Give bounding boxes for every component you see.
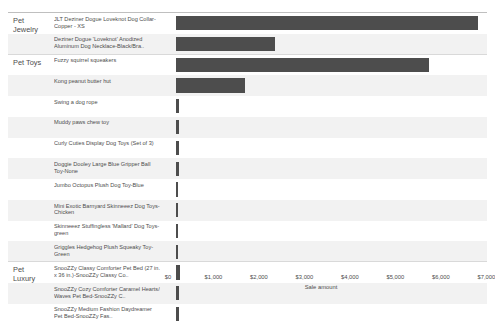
category-label: Pet Toys	[13, 58, 47, 67]
product-row: Griggles Hedgehog Plush Squeaky Toy-Gree…	[50, 241, 163, 262]
bar[interactable]	[176, 224, 178, 238]
bar-row	[163, 179, 487, 200]
x-axis-tick-label: $4,000	[341, 274, 359, 280]
bar-row	[163, 158, 487, 179]
x-axis-tick-label: $6,000	[432, 274, 450, 280]
product-label: Muddy paws chew toy	[54, 119, 160, 126]
product-row: Mini Exotic Barnyard Skinneeez Dog Toys-…	[50, 200, 163, 221]
product-row: SnooZZy Classy Comforter Pet Bed (27 in.…	[50, 262, 163, 283]
x-axis-title: Sale amount	[155, 284, 487, 290]
bar-row	[163, 34, 487, 55]
x-axis-tick-label: $7,000	[477, 274, 495, 280]
bar[interactable]	[176, 16, 478, 30]
category-label: Pet Jewelry	[13, 16, 47, 34]
product-label: Jumbo Octopus Plush Dog Toy-Blue	[54, 182, 160, 189]
bar[interactable]	[176, 99, 179, 113]
product-label: Curly Cuties Display Dog Toys (Set of 3)	[54, 140, 160, 147]
product-label: Fuzzy squirrel squeakers	[54, 57, 160, 64]
product-row: Deziner Dogue 'Loveknot' Anodized Alumin…	[50, 34, 163, 55]
bar-row	[163, 55, 487, 76]
bar-row	[163, 138, 487, 159]
product-label: JLT Deziner Dogue Loveknot Dog Collar-Co…	[54, 16, 160, 30]
bar-row	[163, 304, 487, 325]
product-label: SnooZZy Medium Fashion Daydreamer Pet Be…	[54, 306, 160, 320]
product-row: SnooZZy Cozy Comforter Caramel Hearts/ W…	[50, 283, 163, 304]
product-row: Swing a dog rope	[50, 96, 163, 117]
product-row: Doggie Dooley Large Blue Gripper Ball To…	[50, 158, 163, 179]
product-row: Fuzzy squirrel squeakers	[50, 55, 163, 76]
product-row: SnooZZy Medium Fashion Daydreamer Pet Be…	[50, 304, 163, 325]
bar[interactable]	[176, 58, 429, 72]
bar[interactable]	[176, 307, 179, 321]
product-label: Swing a dog rope	[54, 99, 160, 106]
bar[interactable]	[176, 78, 245, 92]
bar-row	[163, 221, 487, 242]
bar[interactable]	[176, 141, 179, 155]
product-label: SnooZZy Cozy Comforter Caramel Hearts/ W…	[54, 286, 160, 300]
x-axis-tick-label: $1,000	[205, 274, 223, 280]
category-label: Pet Luxury	[13, 265, 47, 283]
bar[interactable]	[176, 182, 178, 196]
product-label: Deziner Dogue 'Loveknot' Anodized Alumin…	[54, 36, 160, 50]
product-label: SnooZZy Classy Comforter Pet Bed (27 in.…	[54, 265, 160, 279]
chart-plot-frame: Pet JewelryPet ToysPet Luxury JLT Dezine…	[8, 12, 487, 270]
x-axis-tick-label: $3,000	[296, 274, 314, 280]
product-row: Jumbo Octopus Plush Dog Toy-Blue	[50, 179, 163, 200]
bar[interactable]	[176, 162, 179, 176]
product-label: Kong peanut butter hut	[54, 78, 160, 85]
bar[interactable]	[176, 245, 178, 259]
product-label: Doggie Dooley Large Blue Gripper Ball To…	[54, 161, 160, 175]
product-label: Skinneeez Stuffingless 'Mallard' Dog Toy…	[54, 223, 160, 237]
bar[interactable]	[176, 120, 179, 134]
bar-row	[163, 117, 487, 138]
bar-row	[163, 96, 487, 117]
bar[interactable]	[176, 203, 178, 217]
x-axis-tick-label: $5,000	[387, 274, 405, 280]
bar-row	[163, 241, 487, 262]
bar-row	[163, 200, 487, 221]
product-row: Curly Cuties Display Dog Toys (Set of 3)	[50, 138, 163, 159]
product-row: Kong peanut butter hut	[50, 75, 163, 96]
product-label: Griggles Hedgehog Plush Squeaky Toy-Gree…	[54, 244, 160, 258]
x-axis: $0$1,000$2,000$3,000$4,000$5,000$6,000$7…	[155, 270, 487, 304]
product-row: JLT Deziner Dogue Loveknot Dog Collar-Co…	[50, 13, 163, 34]
x-axis-tick-label: $0	[165, 274, 171, 280]
x-axis-title-label: Sale amount	[305, 284, 338, 290]
bar-row	[163, 13, 487, 34]
x-axis-tick-label: $2,000	[250, 274, 268, 280]
bar-row	[163, 75, 487, 96]
product-row: Muddy paws chew toy	[50, 117, 163, 138]
product-label: Mini Exotic Barnyard Skinneeez Dog Toys-…	[54, 203, 160, 217]
bar[interactable]	[176, 37, 275, 51]
product-row: Skinneeez Stuffingless 'Mallard' Dog Toy…	[50, 221, 163, 242]
